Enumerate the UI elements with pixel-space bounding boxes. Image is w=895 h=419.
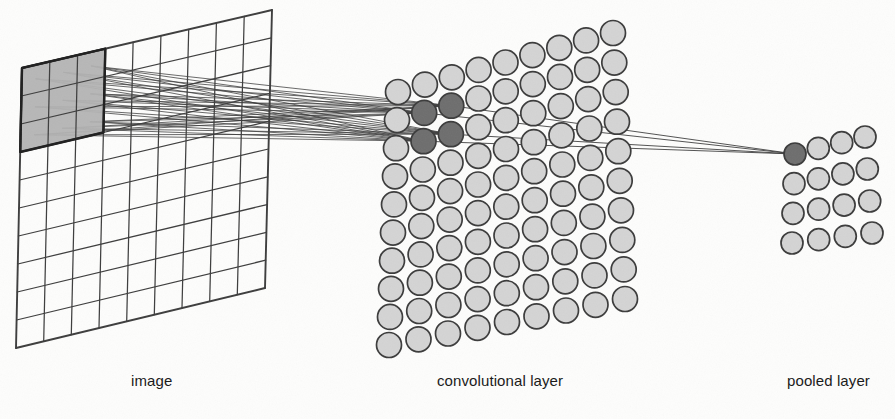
diagram-canvas: image convolutional layer pooled layer bbox=[0, 0, 895, 419]
caption-pooled-layer: pooled layer bbox=[787, 372, 870, 389]
caption-image: image bbox=[131, 372, 172, 389]
caption-convolutional-layer: convolutional layer bbox=[437, 372, 563, 389]
cnn-schematic-svg bbox=[0, 0, 895, 419]
paper-grain bbox=[0, 0, 895, 419]
